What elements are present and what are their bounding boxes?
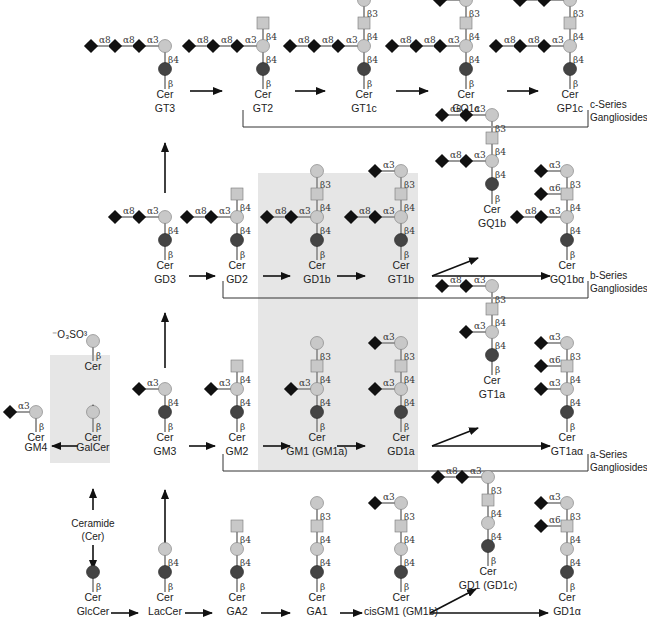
galactose-circle-icon <box>311 165 324 178</box>
series-label: a-Series <box>590 449 627 460</box>
linkage-label: α3 <box>147 206 159 216</box>
linkage-label: α8 <box>123 206 135 216</box>
molecule-gq1b: GQ1bCerββ4β4β3α3α8α3α8 <box>435 104 506 229</box>
ceramide-anchor: Cer <box>559 259 576 271</box>
molecule-name: LacCer <box>148 605 182 617</box>
linkage-label: α8 <box>298 35 310 45</box>
glucose-circle-icon <box>87 566 100 579</box>
glucose-circle-icon <box>159 63 172 76</box>
ceramide-anchor: Cer <box>309 431 326 443</box>
sialic-acid-diamond-icon <box>534 496 548 510</box>
linkage-label: β4 <box>240 375 251 385</box>
galactose-circle-icon <box>486 326 499 339</box>
linkage-label: β4 <box>469 55 480 65</box>
ceramide-anchor: Cer <box>85 591 102 603</box>
series-label-subtitle: Gangliosides <box>590 283 647 294</box>
linkage-label: α8 <box>322 35 334 45</box>
linkage-label: β4 <box>469 32 480 42</box>
molecule-gm4: GM4Cerβα3 <box>3 401 48 453</box>
linkage-label: α3 <box>474 104 486 114</box>
glucose-circle-icon <box>561 234 574 247</box>
glucose-circle-icon <box>395 566 408 579</box>
ceramide-anchor: Cer <box>393 259 410 271</box>
sulfate-group: ⁻O₃SO³ <box>52 329 87 340</box>
linkage-label: β4 <box>573 55 584 65</box>
molecule-name: cisGM1 (GM1b) <box>364 605 438 617</box>
ceramide-anchor: Cer <box>157 591 174 603</box>
sialic-acid-diamond-icon <box>459 325 473 339</box>
sialic-acid-diamond-icon <box>108 210 122 224</box>
linkage-label: β <box>266 79 271 89</box>
galnac-square-icon <box>257 17 269 29</box>
linkage-label: β <box>367 79 372 89</box>
galactose-circle-icon <box>257 40 270 53</box>
linkage-label: α3 <box>346 35 358 45</box>
molecule-name: GT1c <box>351 102 377 114</box>
galnac-square-icon <box>395 188 407 200</box>
ceramide-anchor: Cer <box>356 88 373 100</box>
galactose-circle-icon <box>564 40 577 53</box>
linkage-label: β <box>469 79 474 89</box>
molecule-gt3: GT3Cerββ4α3α8α8 <box>84 35 179 114</box>
molecule-gd1c: GD1 (GD1c)Cerββ4β4β3α3α8 <box>431 466 517 591</box>
galnac-square-icon <box>231 520 243 532</box>
molecule-gd3: GD3Cerββ4α3α8 <box>108 206 179 285</box>
linkage-label: α3 <box>549 332 561 342</box>
molecule-name: GD1a <box>387 445 415 457</box>
molecule-name: GD3 <box>154 273 176 285</box>
glucose-circle-icon <box>311 406 324 419</box>
glucose-circle-icon <box>231 234 244 247</box>
galactose-circle-icon <box>561 337 574 350</box>
galnac-square-icon <box>231 360 243 372</box>
linkage-label: β4 <box>168 55 179 65</box>
linkage-label: β4 <box>570 375 581 385</box>
linkage-label: β <box>96 582 101 592</box>
linkage-label: α3 <box>552 35 564 45</box>
linkage-label: α8 <box>99 35 111 45</box>
series-label-subtitle: Gangliosides <box>590 112 647 123</box>
linkage-label: β4 <box>570 558 581 568</box>
series-label: b-Series <box>590 270 627 281</box>
linkage-label: α8 <box>450 150 462 160</box>
ceramide-anchor: Cer <box>229 259 246 271</box>
sialic-acid-diamond-icon <box>204 382 218 396</box>
galnac-square-icon <box>564 17 576 29</box>
molecule-name: GD1 (GD1c) <box>459 579 517 591</box>
molecule-name: GD2 <box>226 273 248 285</box>
linkage-label: β <box>570 422 575 432</box>
linkage-label: β <box>168 422 173 432</box>
glucose-circle-icon <box>561 566 574 579</box>
sialic-acid-diamond-icon <box>510 210 524 224</box>
galactose-circle-icon <box>358 40 371 53</box>
molecule-gq1ba: GQ1bαCerββ4β4β3α3α8α6α3 <box>510 160 584 285</box>
glucose-circle-icon <box>257 63 270 76</box>
sialic-acid-diamond-icon <box>534 519 548 533</box>
linkage-label: α3 <box>474 275 486 285</box>
glucose-circle-icon <box>395 234 408 247</box>
galnac-square-icon <box>311 360 323 372</box>
linkage-label: β4 <box>404 203 415 213</box>
ceramide-anchor: Cer <box>562 88 579 100</box>
galactose-circle-icon <box>311 337 324 350</box>
ceramide-anchor: Cer <box>484 374 501 386</box>
sialic-acid-diamond-icon <box>489 39 503 53</box>
glucose-circle-icon <box>231 406 244 419</box>
reaction-arrow <box>432 428 478 446</box>
galactose-circle-icon <box>561 543 574 556</box>
molecule-gp1c: GP1cCerββ4β4β3α3α8α8α3α8 <box>489 0 584 114</box>
linkage-label: β4 <box>266 32 277 42</box>
galnac-square-icon <box>482 494 494 506</box>
linkage-label: α8 <box>528 35 540 45</box>
linkage-label: α3 <box>299 206 311 216</box>
galnac-square-icon <box>486 303 498 315</box>
galactose-circle-icon <box>311 211 324 224</box>
ceramide-anchor: Cer <box>309 591 326 603</box>
glucose-circle-icon <box>460 63 473 76</box>
linkage-label: α3 <box>383 378 395 388</box>
molecule-name: GP1c <box>557 102 583 114</box>
molecule-name: GM3 <box>154 445 177 457</box>
linkage-label: β <box>495 365 500 375</box>
linkage-label: β <box>404 582 409 592</box>
linkage-label: β4 <box>491 509 502 519</box>
linkage-label: β4 <box>240 535 251 545</box>
